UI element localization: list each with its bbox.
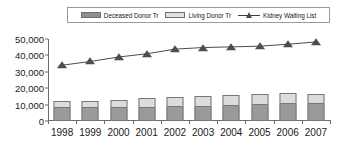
x-axis-label: 2004 bbox=[220, 127, 242, 138]
line-marker-triangle-icon bbox=[85, 58, 95, 65]
y-tick-label: 20,000 bbox=[15, 83, 48, 94]
line-marker-triangle-icon bbox=[114, 53, 124, 60]
x-tick-mark bbox=[302, 121, 303, 124]
line-marker-triangle-icon bbox=[142, 50, 152, 57]
x-axis-label: 1999 bbox=[79, 127, 101, 138]
y-tick-label: 0 bbox=[39, 116, 48, 127]
x-tick-mark bbox=[104, 121, 105, 124]
x-tick-mark bbox=[330, 121, 331, 124]
y-tick-label: 40,000 bbox=[15, 50, 48, 61]
x-axis-label: 2002 bbox=[164, 127, 186, 138]
y-tick-label: 50,000 bbox=[15, 34, 48, 45]
x-tick-mark bbox=[189, 121, 190, 124]
x-axis-label: 2001 bbox=[136, 127, 158, 138]
legend-swatch-deceased-icon bbox=[81, 12, 101, 18]
x-tick-mark bbox=[161, 121, 162, 124]
legend-label-living: Living Donor Tr bbox=[188, 12, 231, 19]
legend-label-deceased: Deceased Donor Tr bbox=[104, 12, 159, 19]
chart-legend: Deceased Donor Tr Living Donor Tr Kidney… bbox=[67, 7, 330, 23]
kidney-transplant-chart: Deceased Donor Tr Living Donor Tr Kidney… bbox=[0, 0, 338, 148]
legend-item-living-donor: Living Donor Tr bbox=[165, 12, 231, 19]
legend-line-triangle-icon bbox=[238, 12, 260, 19]
line-marker-triangle-icon bbox=[57, 61, 67, 68]
x-axis-label: 2000 bbox=[107, 127, 129, 138]
x-axis-label: 2006 bbox=[277, 127, 299, 138]
x-tick-mark bbox=[245, 121, 246, 124]
legend-item-waiting-list: Kidney Waiting List bbox=[238, 12, 316, 19]
x-tick-mark bbox=[76, 121, 77, 124]
y-tick-label: 10,000 bbox=[15, 99, 48, 110]
legend-swatch-living-icon bbox=[165, 12, 185, 18]
x-axis-label: 2005 bbox=[248, 127, 270, 138]
line-marker-triangle-icon bbox=[311, 38, 321, 45]
y-tick-label: 30,000 bbox=[15, 66, 48, 77]
line-series-layer bbox=[48, 39, 330, 121]
x-tick-mark bbox=[274, 121, 275, 124]
legend-label-waiting-list: Kidney Waiting List bbox=[263, 12, 316, 19]
x-tick-mark bbox=[48, 121, 49, 124]
line-marker-triangle-icon bbox=[226, 43, 236, 50]
line-marker-triangle-icon bbox=[198, 44, 208, 51]
line-marker-triangle-icon bbox=[255, 42, 265, 49]
x-tick-mark bbox=[133, 121, 134, 124]
x-tick-mark bbox=[217, 121, 218, 124]
plot-area: 50,00040,00030,00020,00010,0000 19981999… bbox=[48, 39, 330, 121]
x-axis-label: 2003 bbox=[192, 127, 214, 138]
line-marker-triangle-icon bbox=[283, 40, 293, 47]
x-axis-label: 2007 bbox=[305, 127, 327, 138]
x-axis-label: 1998 bbox=[51, 127, 73, 138]
line-marker-triangle-icon bbox=[170, 45, 180, 52]
legend-item-deceased-donor: Deceased Donor Tr bbox=[81, 12, 159, 19]
waiting-list-line bbox=[62, 42, 316, 65]
